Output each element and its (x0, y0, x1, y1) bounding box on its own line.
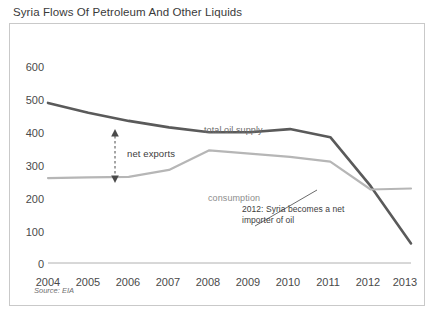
callout-2012-net-importer: 2012: Syria becomes a net importer of oi… (242, 204, 344, 225)
series-label-consumption: consumption (208, 193, 260, 203)
chart-title: Syria Flows Of Petroleum And Other Liqui… (13, 6, 242, 18)
net-exports-arrow (111, 129, 119, 183)
series-line-total-oil-supply (48, 103, 411, 244)
chart-frame: 600 500 400 300 200 100 0 2004 2005 2006… (9, 23, 425, 306)
series-label-total-oil-supply: total oil supply (204, 125, 263, 135)
net-exports-label: net exports (127, 148, 175, 159)
chart-source: Source: EIA (34, 286, 74, 295)
plot-area (10, 24, 426, 307)
